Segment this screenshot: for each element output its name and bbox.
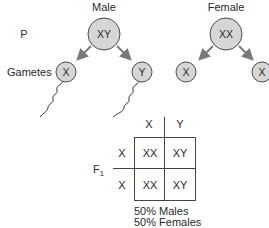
female-label: Female: [208, 1, 245, 13]
gametes-label: Gametes: [7, 66, 52, 78]
female-parent-cell: XX: [210, 18, 242, 50]
column-header-x: X: [145, 118, 153, 130]
svg-text:X: X: [258, 66, 265, 78]
column-header-y: Y: [176, 118, 184, 130]
row-header-x-1: X: [118, 147, 126, 159]
punnett-square: X Y X X XX XY XX XY F1: [93, 117, 196, 201]
sperm-tail-icon: [40, 81, 63, 117]
cell-xy: XY: [173, 179, 188, 191]
arrow-icon: [239, 46, 251, 58]
p-generation-label: P: [20, 28, 27, 40]
sex-determination-diagram: P Male XY Female XX Gametes X Y X X X Y: [0, 0, 269, 228]
cell-xy: XY: [173, 147, 188, 159]
male-parent-cell: XY: [88, 18, 120, 50]
arrow-icon: [79, 46, 91, 58]
male-label: Male: [92, 1, 116, 13]
male-genotype: XY: [97, 28, 111, 40]
arrow-icon: [117, 46, 129, 58]
svg-text:X: X: [62, 66, 69, 78]
svg-text:X: X: [182, 66, 189, 78]
cell-xx: XX: [143, 147, 158, 159]
arrow-icon: [201, 46, 213, 58]
female-genotype: XX: [219, 28, 233, 40]
female-gamete-x-1: X: [176, 62, 196, 82]
svg-text:Y: Y: [138, 66, 145, 78]
cell-xx: XX: [143, 179, 158, 191]
f1-generation-label: F1: [93, 163, 104, 178]
female-gamete-x-2: X: [252, 62, 269, 82]
sperm-tail-icon: [113, 81, 139, 117]
result-females: 50% Females: [134, 216, 202, 228]
male-gamete-y: Y: [113, 62, 152, 117]
row-header-x-2: X: [118, 179, 126, 191]
